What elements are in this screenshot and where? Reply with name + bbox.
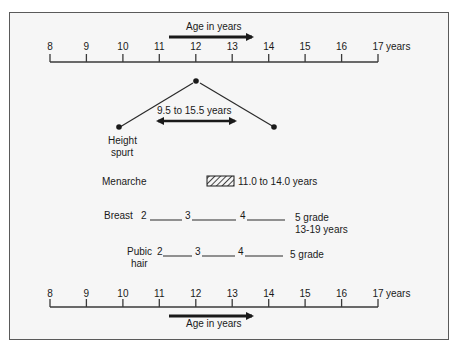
height-spurt-graphic [116, 78, 277, 130]
bottom-axis-unit: years [386, 289, 410, 299]
top-tick-15: 15 [300, 42, 311, 52]
top-tick-17: 17 [372, 42, 383, 52]
breast-stage-4: 4 [240, 211, 246, 221]
top-axis-unit: years [386, 42, 410, 52]
menarche-hatch-box [207, 176, 234, 186]
top-tick-11: 11 [154, 42, 164, 52]
bottom-tick-12: 12 [190, 289, 201, 299]
top-tick-9: 9 [84, 42, 90, 52]
bottom-tick-11: 11 [154, 289, 164, 299]
top-axis-title: Age in years [186, 22, 242, 32]
breast-stage-5: 5 grade [295, 213, 329, 223]
breast-stage-2: 2 [141, 211, 147, 221]
height-spurt-label-1: Height [108, 136, 137, 146]
pubic-stage-4: 4 [238, 247, 244, 257]
bottom-tick-8: 8 [47, 289, 53, 299]
bottom-tick-9: 9 [84, 289, 90, 299]
top-tick-14: 14 [263, 42, 274, 52]
menarche-label: Menarche [102, 177, 146, 187]
height-spurt-range: 9.5 to 15.5 years [157, 106, 232, 116]
pubic-stage-2: 2 [157, 247, 163, 257]
bottom-tick-13: 13 [227, 289, 238, 299]
pubic-stage-5: 5 grade [290, 250, 324, 260]
end-dot-icon [271, 124, 277, 130]
breast-label: Breast [104, 211, 133, 221]
bottom-tick-16: 16 [336, 289, 347, 299]
bottom-tick-17: 17 [372, 289, 383, 299]
top-tick-8: 8 [47, 42, 53, 52]
bottom-tick-10: 10 [117, 289, 128, 299]
pubic-label-2: hair [131, 259, 148, 269]
breast-stage-3: 3 [185, 211, 191, 221]
bottom-axis-title: Age in years [186, 319, 242, 329]
bottom-tick-15: 15 [300, 289, 311, 299]
height-spurt-label-2: spurt [111, 148, 133, 158]
top-tick-12: 12 [190, 42, 201, 52]
peak-dot-icon [193, 78, 199, 84]
breast-range: 13-19 years [295, 225, 348, 235]
top-tick-10: 10 [117, 42, 128, 52]
start-dot-icon [116, 124, 122, 130]
bottom-tick-14: 14 [263, 289, 274, 299]
pubic-stage-3: 3 [195, 247, 201, 257]
top-tick-13: 13 [227, 42, 238, 52]
top-tick-16: 16 [336, 42, 347, 52]
bottom-axis [50, 299, 378, 316]
menarche-range: 11.0 to 14.0 years [238, 177, 317, 187]
top-axis [50, 37, 378, 62]
pubic-label-1: Pubic [127, 247, 152, 257]
